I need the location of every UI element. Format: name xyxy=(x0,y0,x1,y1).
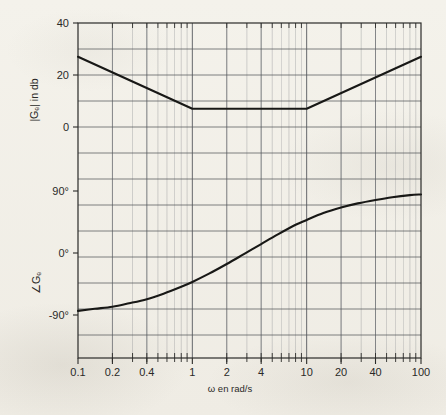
magnitude-axis-tick-labels: 40200 xyxy=(57,17,78,133)
x-tick-label: 4 xyxy=(258,366,264,378)
x-tick-label: 0.4 xyxy=(139,366,154,378)
x-tick-label: 2 xyxy=(224,366,230,378)
grid-vertical-decade-lines xyxy=(112,23,375,358)
phase-axis-title-group: ∠Gₑ xyxy=(30,272,42,294)
grid-horizontal-lines xyxy=(78,49,421,335)
axis-ticks-top xyxy=(112,23,415,28)
phase-tick-label: 0° xyxy=(58,247,69,259)
phase-axis-title: ∠Gₑ xyxy=(30,272,42,294)
phase-axis-tick-labels: 90°0°-90° xyxy=(49,185,78,321)
x-tick-label: 100 xyxy=(412,366,430,378)
magnitude-tick-label: 20 xyxy=(57,69,69,81)
x-axis-caption: ω en rad/s xyxy=(208,383,253,394)
x-axis-tick-labels: 0.10.20.4124102040100 xyxy=(70,366,430,378)
magnitude-tick-label: 40 xyxy=(57,17,69,29)
bode-plot-figure: 0.10.20.4124102040100 40200 90°0°-90° ω … xyxy=(0,0,446,415)
x-tick-label: 0.1 xyxy=(70,366,85,378)
grid-minor-lines xyxy=(112,23,415,358)
bode-plot-canvas: 0.10.20.4124102040100 40200 90°0°-90° ω … xyxy=(0,0,446,415)
x-tick-label: 1 xyxy=(189,366,195,378)
x-tick-label: 10 xyxy=(301,366,313,378)
plot-frame xyxy=(78,23,421,358)
magnitude-tick-label: 0 xyxy=(63,121,69,133)
phase-tick-label: -90° xyxy=(49,309,69,321)
magnitude-axis-title-group: |Gₑ| in db xyxy=(28,78,40,121)
x-tick-label: 40 xyxy=(369,366,381,378)
x-tick-label: 20 xyxy=(335,366,347,378)
magnitude-axis-title: |Gₑ| in db xyxy=(28,78,40,121)
phase-tick-label: 90° xyxy=(52,185,69,197)
x-tick-label: 0.2 xyxy=(105,366,120,378)
phase-curve xyxy=(78,194,421,310)
